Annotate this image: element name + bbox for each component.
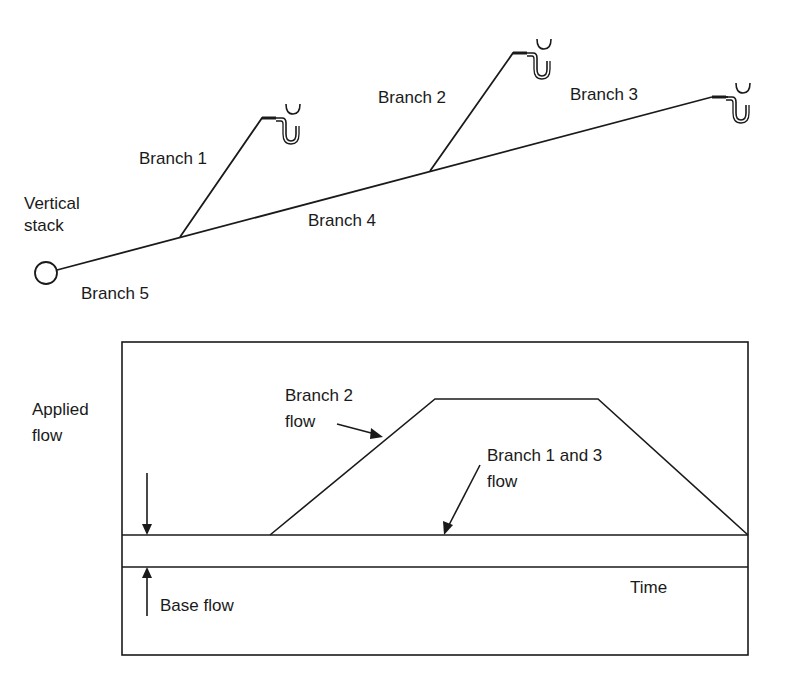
branch-1-3-flow-label: Branch 1 and 3 flow (487, 443, 602, 495)
branch-1-label: Branch 1 (139, 148, 207, 170)
branch-1-line (180, 118, 275, 237)
x-axis-label: Time (630, 577, 667, 599)
sink-trap-icon (262, 104, 300, 144)
branch-2-flow-label: Branch 2 flow (285, 383, 353, 435)
branch-1-3-pointer-arrow (449, 465, 480, 525)
arrow-head-icon (142, 524, 152, 535)
sink-trap-icon (513, 39, 551, 79)
base-flow-label: Base flow (160, 595, 234, 617)
branch-2-line (430, 53, 526, 171)
y-axis-label: Applied flow (32, 397, 89, 449)
branch-5-4-3-main-line (57, 97, 712, 270)
arrow-head-icon (370, 428, 383, 439)
stack-circle-icon (35, 262, 57, 284)
branch-3-label: Branch 3 (570, 84, 638, 106)
branch-4-label: Branch 4 (308, 210, 376, 232)
branch-2-label: Branch 2 (378, 87, 446, 109)
vertical-stack-label: Vertical stack (24, 193, 80, 237)
arrow-head-icon (443, 521, 453, 535)
sink-trap-icon (712, 83, 750, 123)
branch-5-label: Branch 5 (81, 283, 149, 305)
arrow-head-icon (142, 567, 152, 578)
